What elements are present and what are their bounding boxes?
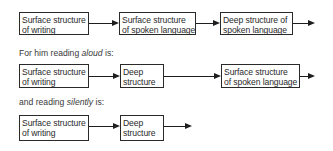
row2-box-deep: Deep structure — [120, 64, 164, 88]
box-label-line2: structure — [123, 77, 161, 87]
box-label-line2: structure — [123, 128, 161, 138]
arrow-line — [196, 23, 214, 24]
arrow-line — [89, 76, 114, 77]
row1-box-deep-spoken: Deep structure of spoken language — [220, 12, 293, 35]
row3-box-deep: Deep structure — [120, 115, 164, 141]
arrow-line — [89, 23, 113, 24]
box-label-line1: Surface structure — [22, 67, 86, 77]
arrow-line — [164, 126, 186, 127]
row2-box-surface-writing: Surface structure of writing — [19, 64, 89, 88]
box-label-line1: Surface structure — [224, 67, 297, 77]
arrow-line — [164, 76, 215, 77]
arrowhead-icon — [185, 123, 192, 129]
box-label-line1: Surface structure — [22, 118, 86, 128]
box-label-line1: Deep — [123, 67, 161, 77]
arrowhead-icon — [113, 123, 120, 129]
arrowhead-icon — [308, 73, 315, 79]
box-label-line1: Surface structure — [122, 15, 193, 25]
row1-box-surface-spoken: Surface structure of spoken language — [119, 12, 196, 35]
box-label-line2: of spoken language — [224, 77, 297, 87]
arrowhead-icon — [112, 20, 119, 26]
arrow-line — [293, 23, 309, 24]
box-label-line2: of spoken language — [122, 25, 193, 35]
arrow-line — [89, 126, 114, 127]
row3-box-surface-writing: Surface structure of writing — [19, 115, 89, 141]
caption-reading-silently: and reading silently is: — [19, 97, 104, 107]
row2-box-surface-spoken: Surface structure of spoken language — [221, 64, 300, 88]
arrowhead-icon — [308, 20, 315, 26]
box-label-line1: Deep — [123, 118, 161, 128]
box-label-line2: of writing — [22, 77, 86, 87]
arrowhead-icon — [214, 73, 221, 79]
box-label-line2: of writing — [22, 25, 86, 35]
box-label-line1: Deep structure of — [223, 15, 290, 25]
row1-box-surface-writing: Surface structure of writing — [19, 12, 89, 35]
arrowhead-icon — [113, 73, 120, 79]
box-label-line2: of writing — [22, 128, 86, 138]
caption-reading-aloud: For him reading aloud is: — [19, 48, 114, 58]
box-label-line2: spoken language — [223, 25, 290, 35]
box-label-line1: Surface structure — [22, 15, 86, 25]
arrowhead-icon — [213, 20, 220, 26]
